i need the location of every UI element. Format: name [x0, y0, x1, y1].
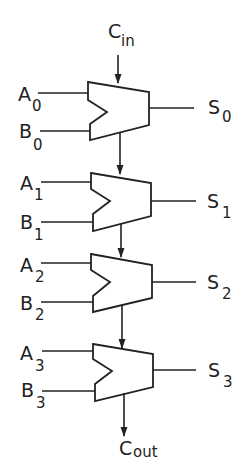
full-adder-block [91, 173, 151, 231]
input-a-label: A [20, 172, 33, 194]
carry-out-arrow-icon [121, 427, 128, 437]
input-b-label: B [19, 120, 32, 142]
carry-in-sub: in [121, 32, 135, 50]
sum-label: S [208, 359, 220, 381]
input-b-sub: 1 [34, 226, 44, 244]
input-a-sub: 2 [35, 268, 45, 286]
input-a-sub: 0 [32, 97, 42, 115]
sum-label: S [208, 96, 220, 118]
adder-stage-3: A 3 B 3 S 3 [20, 342, 233, 412]
carry-arrow-icon [119, 339, 126, 349]
adder-stage-1: A 1 B 1 S 1 [20, 172, 232, 244]
sum-label: S [207, 190, 219, 212]
input-a-sub: 3 [35, 357, 45, 375]
adder-stage-0: A 0 B 0 S 0 [18, 82, 232, 154]
adder-stage-2: A 2 B 2 S 2 [20, 254, 232, 324]
input-a-label: A [18, 83, 31, 105]
sum-sub: 1 [222, 204, 232, 222]
carry-in: C in [108, 20, 135, 84]
carry-arrow-icon [117, 165, 124, 175]
input-a-label: A [20, 254, 33, 276]
carry-out-sub: out [133, 443, 158, 461]
input-b-sub: 2 [35, 306, 45, 324]
adder-diagram: C in A 0 B 0 S 0 A 1 B 1 S 1 [0, 0, 249, 475]
sum-sub: 3 [223, 373, 233, 391]
carry-out: C out [119, 393, 158, 461]
input-b-label: B [20, 211, 33, 233]
input-b-sub: 3 [36, 394, 46, 412]
sum-label: S [207, 271, 219, 293]
carry-arrow-icon [118, 248, 125, 258]
input-a-label: A [20, 342, 33, 364]
full-adder-block [93, 344, 153, 401]
input-b-label: B [21, 379, 34, 401]
sum-sub: 0 [222, 108, 232, 126]
input-b-sub: 0 [33, 136, 43, 154]
input-a-sub: 1 [34, 186, 44, 204]
carry-out-label: C [119, 437, 132, 459]
carry-in-label: C [108, 20, 121, 42]
input-b-label: B [20, 292, 33, 314]
full-adder-block [91, 254, 152, 312]
sum-sub: 2 [222, 285, 232, 303]
full-adder-block [88, 82, 149, 140]
